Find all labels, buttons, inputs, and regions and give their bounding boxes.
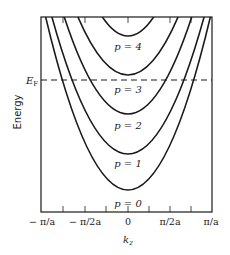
x-tick-label: π/2a: [159, 216, 180, 227]
y-axis-title: Energy: [12, 94, 23, 129]
band-label-p0: p = 0: [114, 198, 142, 209]
x-tick-label: − π/a: [29, 216, 55, 227]
band-label-p4: p = 4: [114, 41, 142, 52]
fermi-level-label: EF: [25, 75, 38, 88]
band-curve-p1: [50, 10, 206, 154]
band-label-p1: p = 1: [114, 158, 142, 169]
top-ticks: [63, 17, 191, 23]
x-axis-title: kz: [123, 234, 133, 247]
x-tick-label: − π/2a: [69, 216, 101, 227]
x-tick-label: π/a: [203, 216, 218, 227]
energy-band-diagram: p = 4 p = 3 p = 2 p = 1 p = 0 EF Energy …: [0, 0, 230, 255]
band-label-p3: p = 3: [114, 84, 142, 95]
band-label-p2: p = 2: [114, 120, 142, 131]
x-tick-label: 0: [125, 216, 131, 227]
